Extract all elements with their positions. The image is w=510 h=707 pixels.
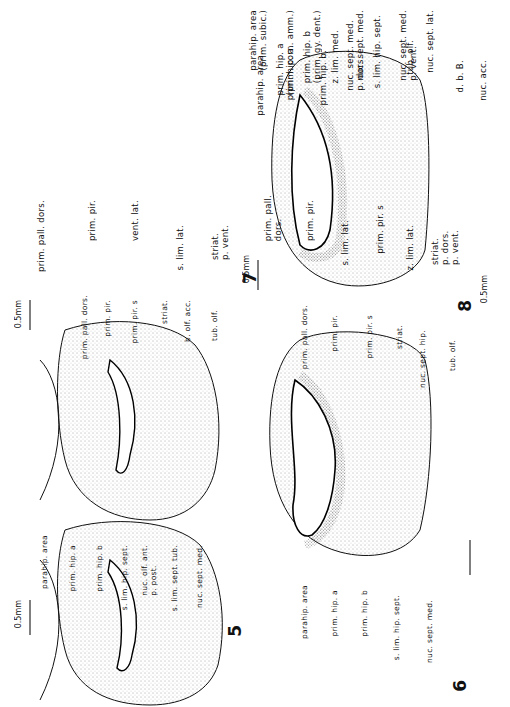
label-6-prim-pall-dors: prim. pall. dors. <box>300 305 309 369</box>
label-6-prim-hip-a: prim. hip. a <box>330 590 339 637</box>
label-5-s-lim-sept-tub: s. lim. sept. tub. <box>170 545 179 611</box>
label-6-prim-pir: prim. pir. <box>330 315 339 352</box>
label-5-prim-pir: prim. pir. <box>103 300 112 337</box>
label-8-prim-hip-a: prim. hip. a. <box>285 45 295 100</box>
label-7-vent-lat: vent. lat. <box>130 200 140 241</box>
label-7-prim-pall-dors: prim. pall. dors. <box>36 200 46 272</box>
label-5-prim-pall-dors: prim. pall. dors. <box>80 295 89 359</box>
label-5-nuc-sept-med: nuc. sept. med. <box>195 545 204 608</box>
scale-label-7: 0.5mm <box>242 255 251 283</box>
label-5-prim-hip-b: prim. hip. b <box>95 545 104 592</box>
panel-number-8: 8 <box>455 300 475 312</box>
label-6-prim-hip-b: prim. hip. b <box>360 590 369 637</box>
label-5-prim-hip-a: prim. hip. a <box>68 545 77 592</box>
label-8-nuc-acc: nuc. acc. <box>478 60 488 101</box>
label-6-striat: striat. <box>395 325 404 349</box>
label-8-z-lim-lat: z. lim. lat. <box>405 225 415 270</box>
label-8-prim-pir: prim. pir. <box>305 200 315 241</box>
label-8-d-b-b: d. b. B. <box>455 60 465 93</box>
label-5-s-lim-hip-sept: s. lim. hip. sept. <box>120 545 129 610</box>
label-6-prim-pir-s: prim. pir. s <box>365 315 374 359</box>
label-7-s-lim-lat: s. lim. lat. <box>175 225 185 270</box>
label-6-nuc-sept-med: nuc. sept. med. <box>425 600 434 663</box>
label-5-striat: striat. <box>160 300 169 324</box>
label-7-prim-pir: prim. pir. <box>87 200 97 241</box>
panel-number-5: 5 <box>225 625 245 637</box>
label-7-z-lim-med: z. lim. med. <box>330 30 340 83</box>
scale-label-5: 0.5mm <box>14 300 23 328</box>
label-8-prim-hip-b: prim. hip. b. <box>318 50 328 105</box>
label-8-nuc-sept-med-p-dors: nuc. sept. med. p. dors. <box>345 20 365 91</box>
scale-label-8: 0.5mm <box>480 275 489 303</box>
label-8-prim-pall-dors: prim. pall. dors. <box>263 195 283 241</box>
scale-label-6: 0.5mm <box>14 600 23 628</box>
label-8-prim-pir-s: prim. pir. s <box>375 205 385 254</box>
label-8-parahip-area: parahip. area <box>255 55 265 116</box>
label-8-s-lim-hip-sept: s. lim. hip. sept. <box>372 15 382 88</box>
label-8-nuc-sept-lat: nuc. sept. lat. <box>425 10 435 73</box>
panel-number-6: 6 <box>450 680 470 692</box>
panel-5-section <box>40 322 219 520</box>
label-6-nuc-sept-hip: nuc. sept. hip. <box>418 330 427 388</box>
label-6-parahip-area: parahip. area <box>300 585 309 639</box>
label-7-striat-p-vent: striat. p. vent. <box>210 225 230 260</box>
label-5-parahip-area: parahip. area <box>40 535 49 589</box>
label-5-tub-olf: tub. olf. <box>210 310 219 341</box>
label-5-nuc-olf-ant: nuc. olf. ant. p. post. <box>140 545 158 596</box>
label-8-nuc-sept-med-p-vent: nuc. sept. med. p. vent. <box>398 10 418 81</box>
label-6-tub-olf: tub. olf. <box>448 340 457 371</box>
panel-8-section <box>270 332 431 556</box>
label-8-striat: striat. p. dors. p. vent. <box>430 230 460 265</box>
label-8-s-lim-lat: s. lim. lat. <box>340 220 350 265</box>
label-6-s-lim-hip-sept: s. lim. hip. sept. <box>392 595 401 660</box>
label-5-prim-pir-s: prim. pir. s <box>130 300 139 344</box>
label-5-b-olf-acc: b. olf. acc. <box>183 300 192 342</box>
